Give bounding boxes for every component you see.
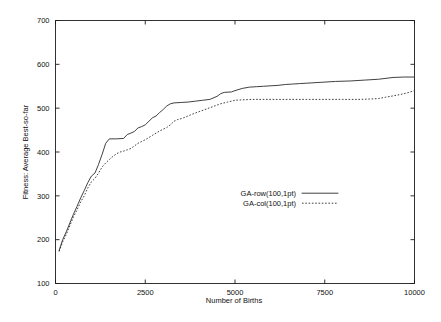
x-tick-label: 7500 <box>316 288 333 297</box>
y-axis-tick-labels: 100200300400500600700 <box>37 16 50 288</box>
x-axis-ticks <box>56 21 415 284</box>
x-tick-label: 0 <box>53 288 57 297</box>
y-axis-ticks <box>56 21 415 284</box>
y-tick-label: 300 <box>37 192 50 201</box>
y-tick-label: 400 <box>37 148 50 157</box>
chart-container: 100200300400500600700 025005000750010000… <box>0 0 441 322</box>
y-tick-label: 700 <box>37 16 50 25</box>
y-tick-label: 500 <box>37 104 50 113</box>
y-tick-label: 200 <box>37 235 50 244</box>
legend: GA-row(100,1pt) GA-col(100,1pt) <box>241 189 338 208</box>
x-tick-label: 10000 <box>404 288 425 297</box>
series-line-ga-row <box>59 77 414 251</box>
x-axis-title: Number of Births <box>206 296 263 305</box>
x-tick-label: 2500 <box>137 288 154 297</box>
series-line-ga-col <box>59 91 414 252</box>
y-axis-title: Fitness: Average Best-so-far <box>21 104 30 199</box>
axes: 100200300400500600700 025005000750010000 <box>37 16 425 296</box>
y-tick-label: 100 <box>37 279 50 288</box>
legend-label-ga-col: GA-col(100,1pt) <box>243 199 296 208</box>
plot-frame <box>56 21 415 284</box>
legend-label-ga-row: GA-row(100,1pt) <box>241 189 297 198</box>
data-series <box>59 77 414 251</box>
line-chart: 100200300400500600700 025005000750010000… <box>0 0 441 322</box>
y-tick-label: 600 <box>37 60 50 69</box>
